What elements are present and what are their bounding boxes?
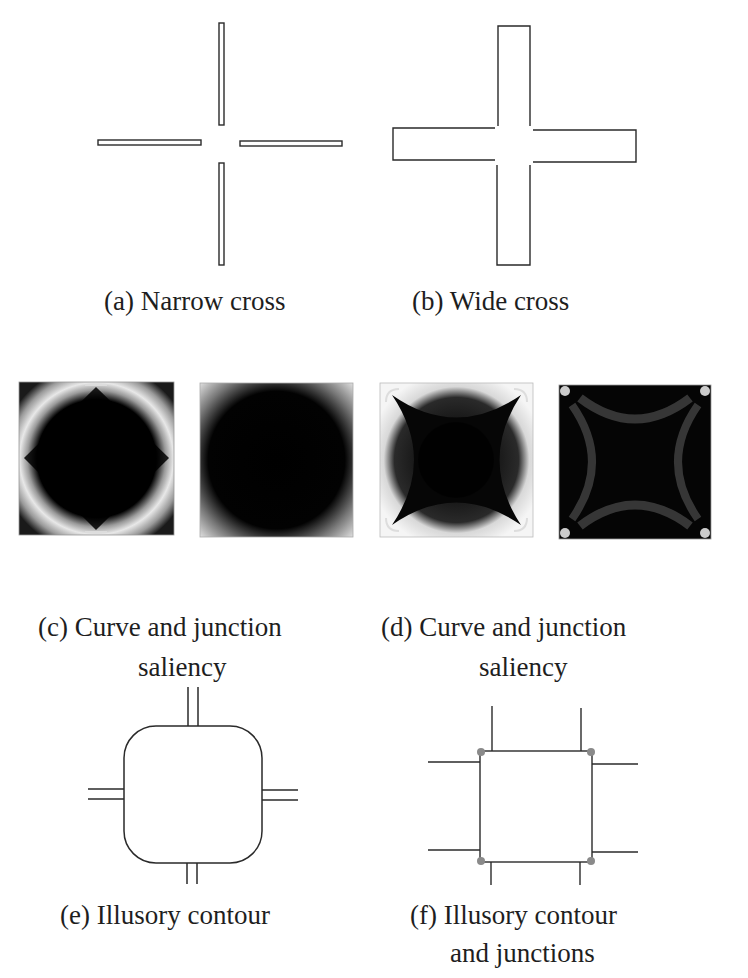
caption-f-line2: and junctions <box>450 936 595 970</box>
illusory-contour-rounded <box>88 687 298 884</box>
wide-cross <box>393 26 636 265</box>
caption-b: (b) Wide cross <box>412 284 569 318</box>
saliency-maps-narrow <box>19 382 353 537</box>
junction-markers <box>477 748 595 865</box>
caption-e: (e) Illusory contour <box>60 898 270 932</box>
caption-f-line1: (f) Illusory contour <box>410 898 617 932</box>
caption-d-line2: saliency <box>479 650 567 684</box>
narrow-cross-figure <box>0 0 748 978</box>
narrow-cross <box>98 23 342 265</box>
caption-c-line1: (c) Curve and junction <box>38 610 282 644</box>
caption-c-line2: saliency <box>138 650 226 684</box>
caption-d-line1: (d) Curve and junction <box>381 610 626 644</box>
illusory-contour-square <box>428 706 638 885</box>
saliency-maps-wide <box>380 383 711 539</box>
caption-a: (a) Narrow cross <box>104 284 285 318</box>
